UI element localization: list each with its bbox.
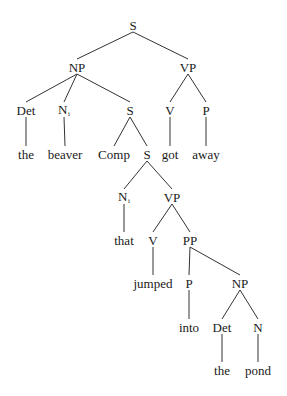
tree-edge (130, 117, 147, 146)
node-label: that (114, 233, 134, 248)
node-label: jumped (134, 276, 173, 291)
tree-edge (64, 117, 65, 146)
tree-node-vp1: VP (180, 61, 197, 74)
tree-node-pond: pond (245, 364, 271, 377)
tree-edge (153, 204, 172, 232)
node-label: V (165, 103, 174, 118)
tree-node-s0: S (129, 19, 136, 32)
node-label: P (202, 103, 209, 118)
node-label: pond (245, 363, 271, 378)
tree-edge (77, 32, 133, 59)
tree-edge (26, 74, 77, 102)
tree-edge (222, 290, 240, 319)
tree-node-n3: N (253, 321, 262, 334)
tree-node-pp: PP (183, 234, 197, 247)
node-label: VP (164, 190, 181, 205)
node-label: the (214, 363, 230, 378)
tree-edges (0, 0, 287, 396)
node-label: got (162, 147, 179, 162)
node-label: Det (213, 320, 232, 335)
tree-node-np1: NP (69, 61, 86, 74)
tree-node-into: into (179, 321, 199, 334)
tree-node-p2: P (185, 277, 192, 290)
node-subscript: i (128, 197, 130, 205)
tree-node-v2: V (148, 234, 157, 247)
tree-edge (188, 74, 206, 102)
tree-edge (133, 32, 188, 59)
tree-node-p1: P (202, 104, 209, 117)
tree-node-s2: S (143, 148, 150, 161)
node-label: Comp (98, 147, 130, 162)
tree-node-vp2: VP (164, 191, 181, 204)
tree-edge (147, 161, 172, 189)
node-label: PP (183, 233, 197, 248)
node-label: V (148, 233, 157, 248)
tree-edge (190, 247, 240, 275)
tree-node-away: away (192, 148, 219, 161)
node-label: beaver (48, 147, 83, 162)
tree-node-beaver: beaver (48, 148, 83, 161)
node-label: NP (69, 60, 86, 75)
tree-edge (170, 74, 188, 102)
tree-node-np2: NP (232, 277, 249, 290)
node-label: NP (232, 276, 249, 291)
node-label: into (179, 320, 199, 335)
node-label: Det (17, 103, 36, 118)
syntax-tree-diagram: SNPVPDetNiSVPthebeaverCompSgotawayNiVPth… (0, 0, 287, 396)
tree-node-v1: V (165, 104, 174, 117)
tree-node-n2: Ni (118, 190, 130, 205)
tree-node-that: that (114, 234, 134, 247)
tree-edge (124, 161, 147, 189)
tree-edge (189, 247, 190, 275)
tree-edge (64, 74, 77, 102)
tree-node-s1: S (126, 104, 133, 117)
tree-node-got: got (162, 148, 179, 161)
tree-edge (114, 117, 130, 146)
node-label: N (253, 320, 262, 335)
tree-edge (172, 204, 190, 232)
node-label: the (18, 147, 34, 162)
tree-node-det2: Det (213, 321, 232, 334)
node-label: S (126, 103, 133, 118)
tree-node-the2: the (214, 364, 230, 377)
tree-node-n1: Ni (58, 103, 70, 118)
tree-node-jumped: jumped (134, 277, 173, 290)
node-label: P (185, 276, 192, 291)
tree-edge (240, 290, 258, 319)
tree-node-comp: Comp (98, 148, 130, 161)
node-label: away (192, 147, 219, 162)
tree-node-det1: Det (17, 104, 36, 117)
node-subscript: i (68, 110, 70, 118)
node-label: N (58, 102, 67, 117)
tree-node-the1: the (18, 148, 34, 161)
node-label: N (118, 189, 127, 204)
node-label: S (143, 147, 150, 162)
node-label: VP (180, 60, 197, 75)
node-label: S (129, 18, 136, 33)
tree-edge (77, 74, 130, 102)
